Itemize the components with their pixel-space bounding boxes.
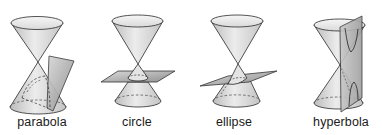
circle-figure bbox=[101, 15, 175, 107]
upper-cone bbox=[112, 21, 163, 64]
upper-cone-rim bbox=[11, 17, 63, 30]
label-parabola: parabola bbox=[17, 115, 66, 129]
hyperbola-figure bbox=[314, 16, 365, 112]
parabola-figure bbox=[10, 17, 74, 115]
upper-cone-rim bbox=[112, 15, 163, 27]
upper-cone-rim bbox=[211, 15, 263, 27]
lower-cone bbox=[115, 82, 161, 107]
ellipse-figure bbox=[200, 15, 277, 107]
cutting-plane bbox=[340, 16, 362, 112]
label-ellipse: ellipse bbox=[216, 115, 252, 129]
upper-cone bbox=[211, 21, 263, 64]
label-hyperbola: hyperbola bbox=[313, 115, 369, 129]
label-circle: circle bbox=[122, 115, 152, 129]
